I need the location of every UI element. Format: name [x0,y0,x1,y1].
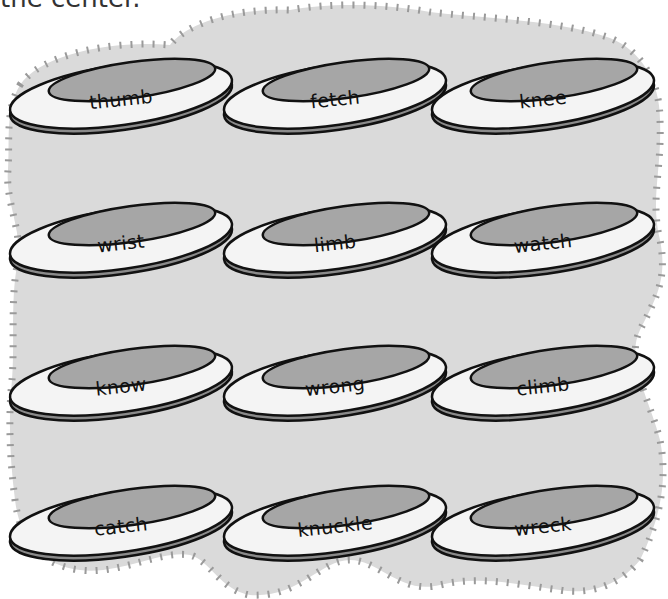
word-disc-catch: catch [6,475,236,565]
word-disc-limb: limb [220,192,450,282]
word-disc-wreck: wreck [428,475,658,565]
word-disc-knuckle: knuckle [220,475,450,565]
word-disc-wrist: wrist [6,192,236,282]
word-disc-wrong: wrong [220,335,450,425]
word-disc-fetch: fetch [220,48,450,138]
word-disc-watch: watch [428,192,658,282]
word-disc-know: know [6,335,236,425]
word-disc-climb: climb [428,335,658,425]
word-disc-knee: knee [428,48,658,138]
word-disc-thumb: thumb [6,48,236,138]
